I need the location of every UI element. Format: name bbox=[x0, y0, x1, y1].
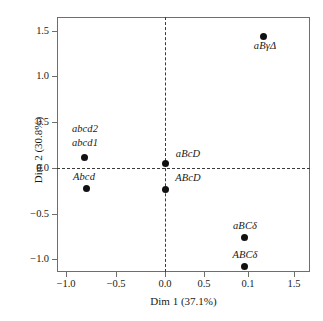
data-point-label: aBcD bbox=[176, 148, 200, 159]
data-point-label: ABcD bbox=[175, 172, 200, 183]
data-point bbox=[260, 33, 267, 40]
data-point-label: aBCδ bbox=[233, 220, 257, 231]
y-axis-tick bbox=[52, 76, 57, 77]
data-point-label: aBγΔ bbox=[254, 40, 276, 51]
zero-reference-line-vertical bbox=[165, 17, 166, 272]
y-axis-tick bbox=[52, 168, 57, 169]
x-axis-tick bbox=[165, 272, 166, 277]
x-axis-tick-label: 1.5 bbox=[274, 278, 314, 289]
data-point-label: abcd1 bbox=[72, 137, 98, 148]
y-axis-tick-label: 1.5 bbox=[8, 25, 49, 36]
data-point-label: Abcd bbox=[73, 171, 95, 182]
x-axis-tick-label: −0.5 bbox=[96, 278, 136, 289]
x-axis-tick bbox=[204, 272, 205, 277]
y-axis-tick bbox=[52, 122, 57, 123]
data-point bbox=[241, 234, 248, 241]
data-point-label: ABCδ bbox=[232, 249, 257, 260]
scatter-plot-figure: −1.0 −0.5 0.0 0.5 0.1 1.5 1.5 1.0 0.5 0.… bbox=[0, 0, 323, 321]
x-axis-tick bbox=[248, 272, 249, 277]
y-axis-tick bbox=[52, 31, 57, 32]
y-axis-tick-label: −1.0 bbox=[8, 253, 49, 264]
y-axis-tick bbox=[52, 259, 57, 260]
x-axis-tick bbox=[66, 272, 67, 277]
y-axis-tick bbox=[52, 214, 57, 215]
x-axis-title: Dim 1 (37.1%) bbox=[57, 295, 310, 307]
data-point bbox=[241, 263, 248, 270]
x-axis-tick-label: 0.5 bbox=[184, 278, 224, 289]
x-axis-tick-label: 0.0 bbox=[145, 278, 185, 289]
data-point bbox=[81, 154, 88, 161]
x-axis-tick-label: 0.1 bbox=[228, 278, 268, 289]
x-axis-tick bbox=[116, 272, 117, 277]
data-point bbox=[162, 186, 169, 193]
y-axis-title: Dim 2 (30.8%) bbox=[32, 70, 44, 230]
data-point bbox=[162, 160, 169, 167]
x-axis-tick bbox=[294, 272, 295, 277]
x-axis-tick-label: −1.0 bbox=[46, 278, 86, 289]
data-point bbox=[83, 185, 90, 192]
data-point-label: abcd2 bbox=[72, 123, 98, 134]
zero-reference-line-horizontal bbox=[57, 168, 310, 169]
